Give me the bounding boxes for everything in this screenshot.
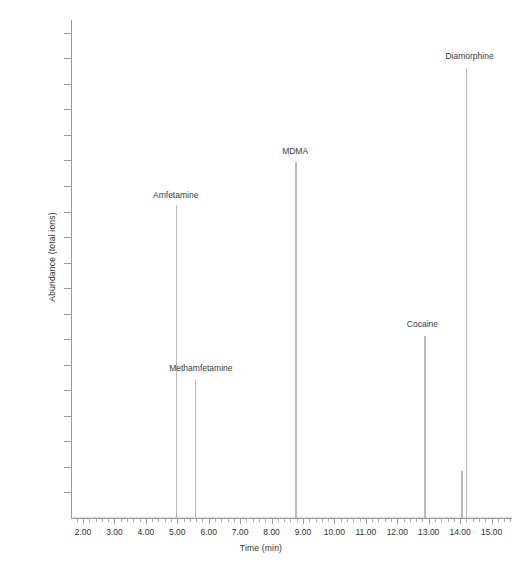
- x-tick-minor: [215, 519, 216, 522]
- x-tick: [272, 519, 273, 524]
- x-tick: [209, 519, 210, 524]
- x-tick-minor: [228, 519, 229, 522]
- x-tick-label: 14.00: [450, 527, 471, 537]
- x-tick-minor: [441, 519, 442, 522]
- x-tick-minor: [322, 519, 323, 522]
- x-tick-minor: [133, 519, 134, 522]
- x-tick-minor: [284, 519, 285, 522]
- y-tick: [64, 288, 72, 289]
- peak: [176, 205, 178, 518]
- x-tick: [303, 519, 304, 524]
- x-tick-minor: [391, 519, 392, 522]
- x-tick-minor: [253, 519, 254, 522]
- x-tick-minor: [290, 519, 291, 522]
- x-tick: [334, 519, 335, 524]
- x-tick-minor: [473, 519, 474, 522]
- y-tick: [64, 416, 72, 417]
- y-tick: [64, 212, 72, 213]
- x-tick-minor: [190, 519, 191, 522]
- x-tick-minor: [196, 519, 197, 522]
- x-tick-minor: [297, 519, 298, 522]
- y-tick: [64, 84, 72, 85]
- x-tick-label: 4.00: [138, 527, 155, 537]
- x-tick-minor: [171, 519, 172, 522]
- peak: [461, 471, 463, 518]
- x-tick-minor: [328, 519, 329, 522]
- x-tick-label: 9.00: [295, 527, 312, 537]
- x-tick-minor: [158, 519, 159, 522]
- y-axis-label: Abundance (total ions): [47, 167, 57, 347]
- y-tick: [64, 492, 72, 493]
- peak: [195, 379, 197, 518]
- x-tick-minor: [259, 519, 260, 522]
- x-tick: [492, 519, 493, 524]
- x-tick-minor: [278, 519, 279, 522]
- x-tick-minor: [184, 519, 185, 522]
- x-axis-spine: [72, 518, 512, 519]
- x-tick-minor: [504, 519, 505, 522]
- y-tick: [64, 135, 72, 136]
- x-tick-minor: [404, 519, 405, 522]
- x-tick: [114, 519, 115, 524]
- x-tick-label: 3.00: [106, 527, 123, 537]
- x-tick-minor: [165, 519, 166, 522]
- x-tick-minor: [454, 519, 455, 522]
- x-tick-label: 5.00: [169, 527, 186, 537]
- x-tick-label: 10.00: [324, 527, 345, 537]
- x-tick-minor: [416, 519, 417, 522]
- y-tick: [64, 314, 72, 315]
- x-tick-minor: [202, 519, 203, 522]
- x-tick: [177, 519, 178, 524]
- x-tick-minor: [347, 519, 348, 522]
- y-tick: [64, 237, 72, 238]
- y-tick: [64, 339, 72, 340]
- x-tick-minor: [448, 519, 449, 522]
- x-tick-minor: [234, 519, 235, 522]
- x-tick-minor: [360, 519, 361, 522]
- y-tick: [64, 365, 72, 366]
- x-tick-label: 6.00: [200, 527, 217, 537]
- x-tick-label: 2.00: [75, 527, 92, 537]
- y-tick: [64, 263, 72, 264]
- x-tick-minor: [466, 519, 467, 522]
- x-tick-label: 12.00: [387, 527, 408, 537]
- x-tick-minor: [378, 519, 379, 522]
- x-tick: [146, 519, 147, 524]
- x-tick-minor: [479, 519, 480, 522]
- x-tick-label: 7.00: [232, 527, 249, 537]
- y-tick: [64, 109, 72, 110]
- x-tick-minor: [77, 519, 78, 522]
- peak-label: Methamfetamine: [169, 363, 232, 373]
- x-tick-minor: [435, 519, 436, 522]
- y-tick: [64, 160, 72, 161]
- x-tick: [429, 519, 430, 524]
- y-tick: [64, 467, 72, 468]
- y-tick: [64, 186, 72, 187]
- peak-label: Cocaine: [407, 319, 438, 329]
- x-tick: [397, 519, 398, 524]
- x-tick-label: 11.00: [356, 527, 377, 537]
- peak-label: Diamorphine: [445, 51, 493, 61]
- x-tick-minor: [510, 519, 511, 522]
- x-tick-minor: [316, 519, 317, 522]
- peak: [466, 69, 468, 518]
- y-tick: [64, 441, 72, 442]
- x-tick-minor: [152, 519, 153, 522]
- x-tick: [83, 519, 84, 524]
- x-tick-minor: [96, 519, 97, 522]
- x-tick-minor: [485, 519, 486, 522]
- x-tick-minor: [341, 519, 342, 522]
- x-tick-minor: [121, 519, 122, 522]
- peak-label: MDMA: [282, 146, 308, 156]
- x-axis-label: Time (min): [0, 543, 522, 553]
- x-tick: [366, 519, 367, 524]
- y-tick: [64, 33, 72, 34]
- x-tick-minor: [127, 519, 128, 522]
- x-tick-label: 15.00: [481, 527, 502, 537]
- x-tick-minor: [385, 519, 386, 522]
- x-tick-minor: [246, 519, 247, 522]
- x-tick-minor: [140, 519, 141, 522]
- x-tick-minor: [102, 519, 103, 522]
- peak-label: Amfetamine: [153, 190, 198, 200]
- plot-area: [72, 20, 512, 518]
